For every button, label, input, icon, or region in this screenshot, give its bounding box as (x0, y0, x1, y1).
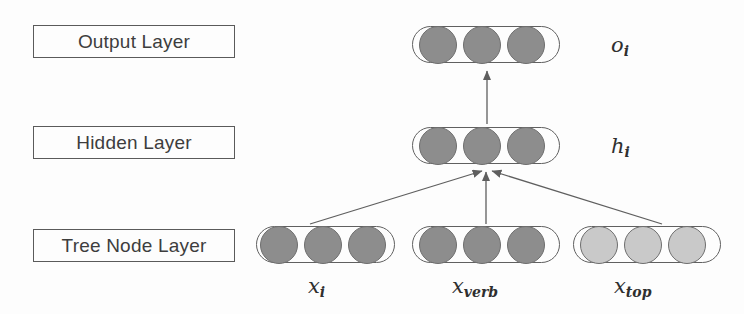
node-group-xverb (412, 226, 560, 263)
label-xtop-vector-base: x (614, 274, 626, 298)
node-output-3 (507, 26, 545, 64)
node-group-xi (256, 226, 395, 263)
node-output-1 (419, 26, 457, 64)
node-hidden-2 (463, 127, 501, 165)
layer-box-output: Output Layer (33, 25, 235, 58)
node-xverb-3 (507, 226, 545, 264)
label-hidden-vector: hi (611, 134, 630, 160)
node-hidden-1 (419, 127, 457, 165)
node-xtop-3 (668, 226, 706, 264)
layer-box-tree-node: Tree Node Layer (33, 229, 235, 262)
edge-xtop-to-hidden (492, 171, 662, 224)
node-xi-1 (260, 226, 298, 264)
node-group-xtop (573, 226, 721, 263)
layer-box-output-label: Output Layer (78, 31, 190, 53)
label-xverb-vector-subscript: verb (464, 284, 498, 300)
node-xi-3 (348, 226, 386, 264)
label-xverb-vector: xverb (452, 274, 498, 300)
label-xtop-vector: xtop (614, 274, 651, 300)
label-xi-vector: xi (308, 274, 325, 300)
node-xtop-2 (624, 226, 662, 264)
label-output-vector-subscript: i (624, 43, 629, 59)
node-hidden-3 (507, 127, 545, 165)
node-xverb-2 (463, 226, 501, 264)
node-xtop-1 (580, 226, 618, 264)
layer-box-tree-node-label: Tree Node Layer (62, 235, 207, 257)
label-hidden-vector-base: h (611, 134, 625, 158)
label-xverb-vector-base: x (452, 274, 464, 298)
label-xtop-vector-subscript: top (626, 284, 652, 300)
node-xi-2 (304, 226, 342, 264)
label-output-vector-base: o (611, 33, 624, 57)
diagram-canvas: Output Layer Hidden Layer Tree Node Laye… (0, 0, 744, 314)
label-xi-vector-subscript: i (320, 284, 325, 300)
node-group-output (412, 26, 560, 63)
label-output-vector: oi (611, 33, 629, 59)
node-output-2 (463, 26, 501, 64)
edge-xi-to-hidden (310, 171, 482, 224)
label-xi-vector-base: x (308, 274, 320, 298)
node-xverb-1 (419, 226, 457, 264)
layer-box-hidden-label: Hidden Layer (76, 132, 191, 154)
layer-box-hidden: Hidden Layer (33, 126, 235, 159)
node-group-hidden (412, 127, 560, 164)
label-hidden-vector-subscript: i (625, 144, 630, 160)
